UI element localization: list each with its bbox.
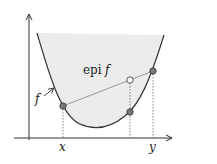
- epigraph-region: [37, 33, 164, 128]
- epigraph-diagram: epi f f x y: [0, 0, 217, 164]
- x-tick-label: x: [59, 140, 66, 154]
- point-on-chord: [127, 77, 133, 83]
- point-y: [150, 68, 156, 74]
- point-on-curve: [127, 109, 133, 115]
- y-tick-label: y: [148, 140, 156, 154]
- point-x: [60, 103, 66, 109]
- epi-label: epi: [83, 63, 102, 77]
- f-label: f: [34, 92, 42, 106]
- f-pointer-arrow: [44, 88, 54, 96]
